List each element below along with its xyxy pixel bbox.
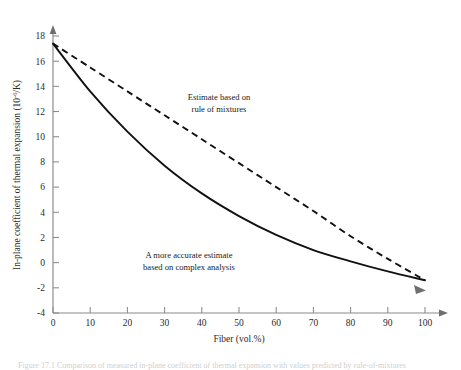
y-tick-group: -4-2024681012141618 <box>36 31 60 318</box>
y-tick-label: -2 <box>37 283 45 293</box>
y-axis-title-main: In-plane coefficient of thermal expansio… <box>12 98 23 270</box>
rule-of-mixtures-line-1: Estimate based on <box>188 92 251 102</box>
y-tick-label: 10 <box>36 132 46 142</box>
complex-analysis-line-1: A more accurate estimate <box>145 250 232 260</box>
y-tick-label: 2 <box>40 233 45 243</box>
y-tick-label: 12 <box>36 107 46 117</box>
x-tick-label: 90 <box>383 318 393 328</box>
complex-analysis-line-2: based on complex analysis <box>143 262 236 272</box>
y-tick-label: 6 <box>40 182 45 192</box>
y-tick-label: 8 <box>40 157 45 167</box>
series-terminus-arrow-icon <box>414 285 426 294</box>
x-tick-label: 80 <box>346 318 356 328</box>
x-tick-label: 0 <box>51 318 56 328</box>
x-axis-title: Fiber (vol.%) <box>213 334 264 345</box>
x-axis <box>53 310 448 317</box>
x-tick-label: 40 <box>197 318 207 328</box>
rule-of-mixtures-annotation: Estimate based on rule of mixtures <box>188 92 251 114</box>
series-rule-of-mixtures <box>53 44 425 281</box>
y-tick-label: 16 <box>36 57 46 67</box>
y-axis-title-tail: /K) <box>12 80 23 93</box>
x-tick-label: 60 <box>271 318 281 328</box>
y-tick-label: 14 <box>36 82 46 92</box>
y-axis <box>50 25 57 313</box>
complex-analysis-annotation: A more accurate estimate based on comple… <box>143 250 236 272</box>
x-axis-arrow-icon <box>439 310 448 317</box>
y-axis-title: In-plane coefficient of thermal expansio… <box>11 80 23 270</box>
svg-text:In-plane coefficient of therma: In-plane coefficient of thermal expansio… <box>11 80 23 270</box>
rule-of-mixtures-line-2: rule of mixtures <box>192 104 248 114</box>
y-tick-label: 4 <box>40 208 45 218</box>
x-tick-label: 50 <box>234 318 244 328</box>
y-tick-label: -4 <box>37 308 45 318</box>
x-tick-label: 30 <box>160 318 170 328</box>
x-tick-label: 70 <box>309 318 319 328</box>
y-axis-arrow-icon <box>50 25 57 34</box>
x-tick-group: 0102030405060708090100 <box>51 307 433 328</box>
y-tick-label: 18 <box>36 31 46 41</box>
y-tick-label: 0 <box>40 258 45 268</box>
x-tick-label: 100 <box>418 318 433 328</box>
x-tick-label: 10 <box>85 318 95 328</box>
figure-caption: Figure 17.1 Comparison of measured in-pl… <box>18 361 448 370</box>
x-tick-label: 20 <box>123 318 133 328</box>
